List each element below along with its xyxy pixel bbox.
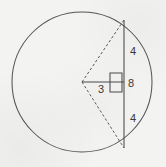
label-perpendicular-distance: 3	[98, 83, 104, 95]
geometry-figure: 4 8 3 4	[0, 0, 166, 167]
label-upper-segment: 4	[130, 45, 136, 57]
geometry-canvas: 4 8 3 4	[0, 0, 166, 167]
label-chord-total: 8	[128, 77, 134, 89]
label-lower-segment: 4	[130, 112, 136, 124]
